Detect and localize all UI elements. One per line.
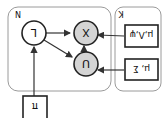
graphical-model-diagram: N K L X U μ,Λ,ψ μ, Σ π — [0, 0, 162, 118]
param-label-pi: π — [32, 101, 38, 112]
node-l-label: L — [30, 26, 37, 39]
edge-p1-x — [98, 35, 124, 36]
param-label-mu-lambda-psi: μ,Λ,ψ — [130, 30, 154, 40]
plate-k-label: K — [118, 9, 124, 18]
edge-l-u — [44, 40, 72, 57]
param-label-mu-sigma: μ, Σ — [133, 64, 150, 74]
node-u-label: U — [82, 57, 90, 70]
plate-n-label: N — [15, 9, 21, 18]
node-x-label: X — [82, 26, 90, 39]
